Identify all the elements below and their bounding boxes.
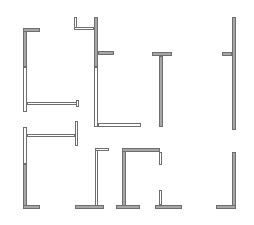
solid-wall-segment	[217, 206, 236, 209]
solid-wall-segment	[160, 57, 163, 127]
hollow-wall-segment	[24, 68, 27, 112]
hollow-wall-segment	[76, 122, 78, 146]
solid-wall-segment	[123, 149, 160, 152]
hollow-wall-segment	[160, 153, 162, 165]
solid-wall-segment	[223, 53, 232, 56]
solid-wall-segment	[156, 206, 182, 209]
hollow-wall-segment	[96, 149, 109, 151]
hollow-wall-segment	[99, 124, 141, 127]
hollow-wall-segment	[28, 103, 79, 105]
hollow-wall-segment	[77, 101, 79, 107]
solid-wall-segment	[24, 29, 40, 32]
solid-wall-segment	[95, 18, 98, 67]
wall-profiles-diagram	[0, 0, 254, 225]
hollow-wall-segment	[160, 191, 162, 205]
solid-wall-segment	[24, 29, 27, 67]
solid-wall-segment	[233, 18, 236, 130]
hollow-wall-segment	[28, 135, 75, 137]
solid-wall-segment	[153, 53, 172, 56]
solid-wall-segment	[117, 206, 140, 209]
diagram-background	[0, 0, 254, 225]
hollow-wall-segment	[75, 28, 94, 30]
solid-wall-segment	[24, 165, 27, 209]
solid-wall-segment	[123, 149, 126, 206]
solid-wall-segment	[76, 206, 104, 209]
solid-wall-segment	[24, 206, 40, 209]
solid-wall-segment	[233, 153, 236, 209]
hollow-wall-segment	[24, 128, 27, 164]
hollow-wall-segment	[96, 149, 98, 206]
solid-wall-segment	[99, 52, 114, 55]
hollow-wall-segment	[95, 68, 98, 127]
